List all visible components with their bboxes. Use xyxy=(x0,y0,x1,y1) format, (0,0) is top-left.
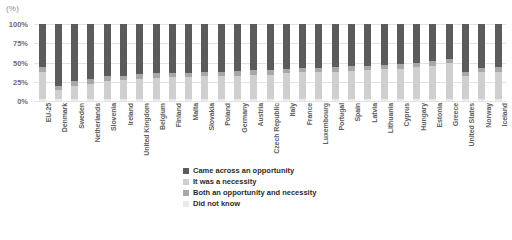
bar-stack xyxy=(397,24,404,101)
bar-column[interactable] xyxy=(229,24,245,101)
bar-stack xyxy=(267,24,274,101)
bar-column[interactable] xyxy=(327,24,343,101)
bar-column[interactable] xyxy=(425,24,441,101)
legend-swatch-icon xyxy=(183,201,189,207)
bar-stack xyxy=(136,24,143,101)
bar-group xyxy=(34,24,506,101)
bar-stack xyxy=(364,24,371,101)
bar-column[interactable] xyxy=(164,24,180,101)
bar-stack xyxy=(71,24,78,101)
segment-opportunity xyxy=(446,24,453,59)
segment-necessity xyxy=(446,63,453,99)
segment-opportunity xyxy=(478,24,485,68)
x-axis-label-cell: Czech Republic xyxy=(262,101,278,161)
bar-stack xyxy=(185,24,192,101)
bar-column[interactable] xyxy=(132,24,148,101)
bar-stack xyxy=(462,24,469,101)
legend-label: Both an opportunity and necessity xyxy=(193,188,316,197)
plot-area xyxy=(34,24,506,101)
segment-opportunity xyxy=(413,24,420,63)
y-axis: 100%75%50%25%0% xyxy=(0,24,32,101)
bar-column[interactable] xyxy=(343,24,359,101)
segment-opportunity xyxy=(169,24,176,73)
segment-necessity xyxy=(364,70,371,99)
bar-column[interactable] xyxy=(262,24,278,101)
y-axis-tick-label: 0% xyxy=(17,97,28,106)
bar-column[interactable] xyxy=(197,24,213,101)
bar-column[interactable] xyxy=(115,24,131,101)
segment-opportunity xyxy=(429,24,436,61)
x-axis-label: Iceland xyxy=(501,103,508,126)
bar-column[interactable] xyxy=(83,24,99,101)
x-axis-label-cell: Sweden xyxy=(67,101,83,161)
x-axis-label-cell: United Kingdom xyxy=(132,101,148,161)
x-axis-label-cell: Spain xyxy=(343,101,359,161)
legend-item[interactable]: Did not know xyxy=(183,198,423,209)
bar-column[interactable] xyxy=(360,24,376,101)
segment-necessity xyxy=(185,77,192,99)
bar-stack xyxy=(87,24,94,101)
segment-necessity xyxy=(267,75,274,100)
segment-opportunity xyxy=(87,24,94,79)
x-axis-label-cell: EU-25 xyxy=(34,101,50,161)
x-axis-label-cell: Latvia xyxy=(360,101,376,161)
bar-stack xyxy=(446,24,453,101)
bar-column[interactable] xyxy=(34,24,50,101)
bar-column[interactable] xyxy=(246,24,262,101)
bar-stack xyxy=(153,24,160,101)
segment-necessity xyxy=(429,66,436,100)
bar-stack xyxy=(104,24,111,101)
legend-item[interactable]: Both an opportunity and necessity xyxy=(183,187,423,198)
x-axis-label-cell: Estonia xyxy=(425,101,441,161)
bar-stack xyxy=(283,24,290,101)
segment-necessity xyxy=(397,69,404,100)
segment-necessity xyxy=(136,79,143,100)
segment-necessity xyxy=(495,72,502,100)
x-axis-label-cell: Belgium xyxy=(148,101,164,161)
x-axis-label-cell: Finland xyxy=(164,101,180,161)
segment-necessity xyxy=(462,76,469,99)
bar-stack xyxy=(478,24,485,101)
bar-column[interactable] xyxy=(295,24,311,101)
bar-column[interactable] xyxy=(213,24,229,101)
segment-opportunity xyxy=(397,24,404,64)
bar-column[interactable] xyxy=(148,24,164,101)
x-axis-label-cell: Iceland xyxy=(490,101,506,161)
segment-necessity xyxy=(299,72,306,99)
x-axis-label-cell: Germany xyxy=(229,101,245,161)
x-axis-label-cell: Poland xyxy=(213,101,229,161)
bar-column[interactable] xyxy=(392,24,408,101)
x-axis-label-cell: Slovakia xyxy=(197,101,213,161)
legend-item[interactable]: It was a necessity xyxy=(183,176,423,187)
legend-item[interactable]: Came across an opportunity xyxy=(183,165,423,176)
bar-column[interactable] xyxy=(311,24,327,101)
bar-column[interactable] xyxy=(474,24,490,101)
y-axis-tick-label: 100% xyxy=(9,20,28,29)
bar-column[interactable] xyxy=(441,24,457,101)
bar-column[interactable] xyxy=(181,24,197,101)
segment-opportunity xyxy=(39,24,46,67)
bar-column[interactable] xyxy=(457,24,473,101)
bar-column[interactable] xyxy=(376,24,392,101)
segment-necessity xyxy=(283,73,290,99)
segment-opportunity xyxy=(136,24,143,74)
bar-column[interactable] xyxy=(278,24,294,101)
bar-column[interactable] xyxy=(99,24,115,101)
segment-opportunity xyxy=(267,24,274,70)
x-axis-label-cell: Netherlands xyxy=(83,101,99,161)
segment-necessity xyxy=(315,72,322,99)
segment-opportunity xyxy=(218,24,225,72)
bar-column[interactable] xyxy=(67,24,83,101)
bar-column[interactable] xyxy=(408,24,424,101)
legend-swatch-icon xyxy=(183,179,189,185)
segment-opportunity xyxy=(348,24,355,66)
bar-column[interactable] xyxy=(50,24,66,101)
bar-stack xyxy=(495,24,502,101)
bar-column[interactable] xyxy=(490,24,506,101)
segment-necessity xyxy=(413,67,420,99)
x-axis-label-cell: Hungary xyxy=(408,101,424,161)
bar-stack xyxy=(234,24,241,101)
segment-opportunity xyxy=(495,24,502,67)
segment-necessity xyxy=(55,90,62,99)
segment-opportunity xyxy=(364,24,371,66)
